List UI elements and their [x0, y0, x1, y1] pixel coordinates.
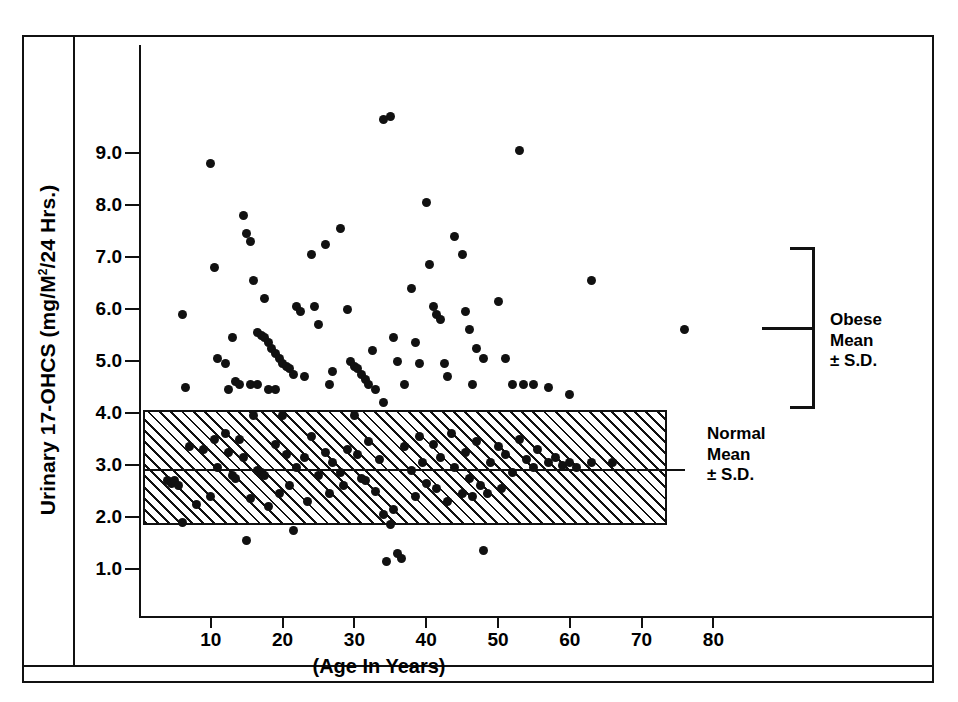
scatter-point	[307, 250, 316, 259]
scatter-point	[321, 240, 330, 249]
scatter-point	[458, 250, 467, 259]
scatter-point	[501, 354, 510, 363]
y-axis-tick-label: 5.0	[78, 351, 122, 370]
scatter-point	[246, 237, 255, 246]
normal-mean-annotation: Normal Mean ± S.D.	[707, 424, 766, 486]
scatter-point	[235, 435, 244, 444]
scatter-point	[178, 310, 187, 319]
scatter-point	[321, 448, 330, 457]
scatter-point	[314, 471, 323, 480]
y-axis-tick	[125, 256, 139, 258]
scatter-point	[235, 380, 244, 389]
x-axis-line	[139, 616, 934, 618]
scatter-point	[440, 359, 449, 368]
scatter-point	[221, 359, 230, 368]
scatter-point	[185, 442, 194, 451]
scatter-point	[210, 435, 219, 444]
scatter-point	[494, 442, 503, 451]
normal-annotation-line-1: Normal	[707, 424, 766, 445]
scatter-point	[300, 372, 309, 381]
scatter-point	[465, 474, 474, 483]
y-title-divider	[73, 35, 75, 665]
y-axis-tick	[125, 360, 139, 362]
scatter-point	[411, 492, 420, 501]
scatter-point	[472, 344, 481, 353]
scatter-point	[181, 383, 190, 392]
scatter-point	[325, 489, 334, 498]
y-axis-title-head: Urinary 17-OHCS (mg/M	[36, 275, 59, 515]
y-axis-tick-label: 1.0	[78, 559, 122, 578]
scatter-point	[336, 224, 345, 233]
x-axis-tick-label: 30	[334, 630, 374, 649]
scatter-point	[436, 453, 445, 462]
obese-annotation-line-3: ± S.D.	[830, 351, 882, 372]
scatter-point	[479, 354, 488, 363]
y-axis-tick	[125, 204, 139, 206]
x-axis-tick-label: 50	[478, 630, 518, 649]
obese-annotation-line-1: Obese	[830, 310, 882, 331]
scatter-point	[343, 445, 352, 454]
normal-annotation-line-3: ± S.D.	[707, 465, 766, 486]
y-axis-tick	[125, 464, 139, 466]
scatter-point	[519, 380, 528, 389]
scatter-point	[407, 466, 416, 475]
y-axis-tick-label: 9.0	[78, 143, 122, 162]
scatter-point	[300, 453, 309, 462]
y-axis-tick-label: 4.0	[78, 403, 122, 422]
scatter-point	[239, 211, 248, 220]
scatter-point	[551, 453, 560, 462]
figure-outer-frame	[22, 35, 934, 683]
y-axis-title: Urinary 17-OHCS (mg/M2/24 Hrs.)	[23, 35, 73, 665]
scatter-point	[206, 492, 215, 501]
scatter-point	[508, 380, 517, 389]
scatter-point	[307, 432, 316, 441]
y-axis-tick	[125, 152, 139, 154]
x-axis-tick-label: 20	[263, 630, 303, 649]
scatter-point	[400, 380, 409, 389]
x-axis-tick-label: 70	[622, 630, 662, 649]
obese-mean-annotation: Obese Mean ± S.D.	[830, 310, 882, 372]
y-axis-tick	[125, 412, 139, 414]
y-axis-tick-label: 7.0	[78, 247, 122, 266]
normal-annotation-line-2: Mean	[707, 445, 766, 466]
x-axis-tick-label: 80	[693, 630, 733, 649]
obese-annotation-line-2: Mean	[830, 331, 882, 352]
scatter-point	[264, 502, 273, 511]
scatter-point	[436, 315, 445, 324]
scatter-point	[336, 468, 345, 477]
scatter-point	[224, 448, 233, 457]
scatter-point	[289, 526, 298, 535]
scatter-point	[192, 500, 201, 509]
x-axis-title: (Age In Years)	[0, 655, 958, 678]
figure-root: Urinary 17-OHCS (mg/M2/24 Hrs.) 1.02.03.…	[0, 0, 958, 702]
scatter-point	[483, 489, 492, 498]
scatter-point	[397, 554, 406, 563]
x-axis-tick-label: 40	[406, 630, 446, 649]
scatter-point	[422, 198, 431, 207]
x-axis-tick	[712, 617, 714, 628]
scatter-point	[228, 333, 237, 342]
bracket-top-arm	[790, 247, 815, 250]
scatter-point	[371, 487, 380, 496]
x-axis-tick	[353, 617, 355, 628]
scatter-point	[350, 411, 359, 420]
scatter-point	[210, 263, 219, 272]
x-axis-tick	[497, 617, 499, 628]
scatter-point	[282, 450, 291, 459]
y-axis-tick-label: 3.0	[78, 455, 122, 474]
y-axis-line	[139, 45, 141, 617]
x-axis-tick-label: 60	[550, 630, 590, 649]
x-axis-tick-label: 10	[191, 630, 231, 649]
scatter-point	[472, 437, 481, 446]
x-axis-tick	[569, 617, 571, 628]
y-axis-tick	[125, 516, 139, 518]
scatter-point	[231, 474, 240, 483]
scatter-point	[418, 458, 427, 467]
scatter-point	[260, 471, 269, 480]
scatter-point	[407, 284, 416, 293]
scatter-point	[468, 492, 477, 501]
scatter-point	[515, 146, 524, 155]
scatter-point	[422, 479, 431, 488]
y-axis-tick-label: 8.0	[78, 195, 122, 214]
scatter-point	[379, 115, 388, 124]
